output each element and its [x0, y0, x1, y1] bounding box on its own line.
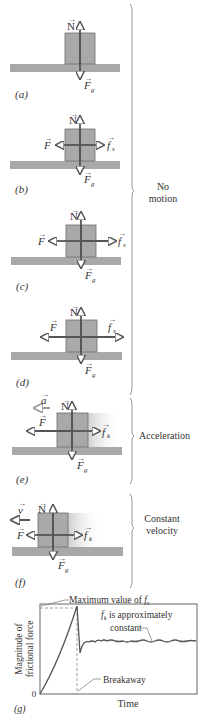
friction-subscript: s	[112, 145, 115, 153]
brace-label: motion	[149, 193, 177, 204]
panel-a: N → F g → (a)	[10, 15, 120, 101]
vector-arrow-icon: →	[71, 206, 79, 215]
brace-constant-velocity: Constant velocity	[130, 494, 180, 588]
brace-label: velocity	[146, 525, 178, 536]
max-annotation-leader	[41, 600, 69, 606]
gravity-subscript: g	[92, 371, 96, 379]
brace-acceleration: Acceleration	[130, 398, 190, 484]
ground	[10, 161, 120, 169]
brace-label: No	[157, 181, 169, 192]
friction-subscript: s	[123, 241, 126, 249]
ground	[11, 257, 121, 265]
vector-arrow-icon: →	[85, 359, 93, 368]
vector-arrow-icon: →	[107, 133, 115, 142]
panel-label-c: (c)	[16, 280, 29, 293]
vector-arrow-icon: →	[84, 168, 92, 177]
breakaway-leader	[78, 679, 101, 691]
gravity-subscript: g	[84, 466, 88, 474]
gravity-subscript: g	[65, 566, 69, 574]
max-value-annotation: Maximum value of fs	[69, 595, 150, 606]
vector-arrow-icon: →	[118, 229, 126, 238]
panel-label-d: (d)	[16, 376, 29, 389]
vector-arrow-icon: →	[84, 74, 92, 83]
vector-arrow-icon: →	[41, 390, 49, 399]
panel-label-b: (b)	[15, 183, 28, 196]
vector-arrow-icon: →	[71, 302, 79, 311]
y-axis-label: Magnitude of	[14, 622, 24, 674]
panel-d: N → F → f s → F g → (d)	[11, 302, 123, 389]
vector-arrow-icon: →	[18, 499, 26, 508]
panel-f: v → N → F → f k → F g → (f)	[11, 499, 123, 589]
vector-arrow-icon: →	[70, 110, 78, 119]
vector-arrow-icon: →	[62, 396, 70, 405]
vector-arrow-icon: →	[108, 315, 116, 324]
panel-e: a → N → F → f k → F g → (e)	[12, 390, 122, 486]
y-axis-label-line2: frictional force	[25, 621, 35, 678]
brace-label: Acceleration	[139, 430, 190, 441]
vector-arrow-icon: →	[68, 15, 76, 24]
vector-arrow-icon: →	[44, 134, 52, 143]
const-annotation-leader	[140, 628, 152, 641]
vector-arrow-icon: →	[17, 524, 25, 533]
vector-arrow-icon: →	[50, 316, 58, 325]
brace-label: Constant	[144, 513, 180, 524]
friction-graph: Maximum value of fs fk is approximately …	[14, 595, 197, 714]
panel-label-e: (e)	[16, 473, 29, 486]
ground	[12, 547, 123, 556]
ground	[12, 447, 122, 455]
vector-arrow-icon: →	[102, 420, 110, 429]
vector-arrow-icon: →	[85, 264, 93, 273]
panel-c: N → F → f s → F g → (c)	[11, 206, 126, 293]
panel-b: N → F → f s → F g → (b)	[10, 110, 120, 196]
x-axis-label: Time	[118, 698, 139, 709]
constant-annotation: fk is approximately	[101, 610, 173, 621]
ground	[10, 64, 120, 72]
ground	[11, 352, 122, 360]
brace-no-motion: No motion	[130, 4, 177, 395]
panel-label-a: (a)	[15, 88, 28, 101]
panel-label-f: (f)	[15, 576, 26, 589]
friction-diagram: N → F g → (a) N → F → f s → F g → (b) N …	[0, 0, 207, 714]
origin-label: 0	[32, 689, 37, 699]
gravity-subscript: g	[92, 276, 96, 284]
panel-label-g: (g)	[14, 703, 26, 714]
vector-arrow-icon: →	[58, 554, 66, 563]
breakaway-annotation: Breakaway	[103, 675, 146, 685]
vector-arrow-icon: →	[84, 523, 92, 532]
gravity-subscript: g	[91, 180, 95, 188]
vector-arrow-icon: →	[39, 411, 47, 420]
vector-arrow-icon: →	[38, 230, 46, 239]
friction-subscript: s	[113, 327, 116, 335]
constant-annotation-line2: constant	[110, 623, 142, 633]
vector-arrow-icon: →	[39, 499, 47, 508]
vector-arrow-icon: →	[77, 454, 85, 463]
gravity-subscript: g	[91, 86, 95, 94]
